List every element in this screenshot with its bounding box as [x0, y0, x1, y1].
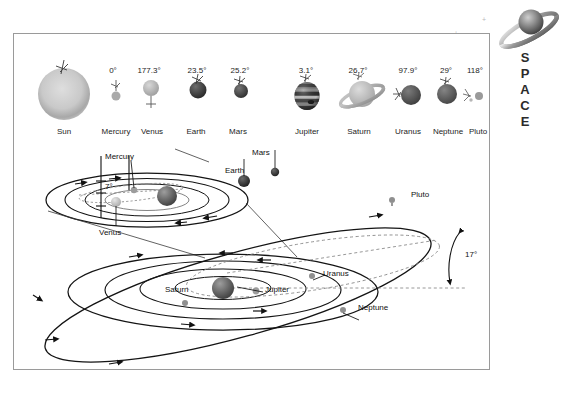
tilt-angle-uranus: 97.9° [391, 66, 425, 75]
sun-sphere-outer [212, 277, 234, 299]
planet-dot-uranus [309, 273, 315, 279]
diagram-label-venus: Venus [99, 228, 121, 237]
body-name-venus: Venus [136, 127, 168, 136]
diagram-label-mars: Mars [252, 148, 270, 157]
diagram-label-mercury: Mercury [105, 152, 134, 161]
outer-tilt-annotation [449, 208, 462, 288]
diagram-label-earth: Earth [225, 166, 244, 175]
pluto-orbit [34, 201, 442, 370]
orbital-planes-diagram: 7° [13, 140, 490, 370]
mars-icon [228, 72, 252, 106]
body-name-jupiter: Jupiter [288, 127, 326, 136]
earth-icon [185, 72, 211, 106]
diagram-label-pluto: Pluto [411, 190, 429, 199]
inner-system-orbits [46, 173, 248, 227]
decorative-plus-icon: + [482, 16, 486, 23]
tilt-angle-mercury: 0° [103, 66, 123, 75]
tilt-angle-pluto: 118° [460, 66, 490, 75]
mercury-icon [104, 76, 128, 106]
body-name-pluto: Pluto [464, 127, 492, 136]
inner-tilt-angle-value: 7° [105, 182, 113, 191]
pluto-icon [462, 82, 488, 110]
sun-sphere-inner [157, 186, 177, 206]
outer-orbit-direction-arrows [33, 215, 381, 364]
uranus-icon [392, 78, 424, 112]
diagram-label-neptune: Neptune [358, 303, 388, 312]
planet-dot-neptune [340, 307, 346, 313]
jupiter-icon [290, 72, 324, 116]
diagram-label-uranus: Uranus [323, 269, 349, 278]
body-name-uranus: Uranus [390, 127, 426, 136]
body-name-neptune: Neptune [428, 127, 468, 136]
diagram-label-saturn: Saturn [165, 285, 189, 294]
outer-tilt-angle-value: 17° [465, 250, 477, 259]
body-name-earth: Earth [180, 127, 212, 136]
body-name-mars: Mars [222, 127, 254, 136]
body-name-saturn: Saturn [342, 127, 376, 136]
planet-dot-mars [271, 168, 279, 176]
planet-dot-pluto [389, 197, 395, 203]
inner-leader-lines [116, 150, 275, 226]
body-name-mercury: Mercury [96, 127, 136, 136]
venus-icon [138, 74, 164, 114]
solar-system-figure: + + SPACE [0, 0, 566, 402]
logo-wordmark: SPACE [518, 50, 531, 130]
planet-dot-saturn [182, 300, 188, 306]
diagram-label-jupiter: Jupiter [265, 285, 289, 294]
planet-dot-venus [111, 197, 121, 207]
sun-icon [30, 52, 98, 124]
neptune-icon [432, 74, 462, 110]
body-name-sun: Sun [42, 127, 86, 136]
saturn-icon [337, 70, 387, 118]
planet-dot-earth [238, 175, 250, 187]
space-logo: + + SPACE [492, 2, 566, 122]
